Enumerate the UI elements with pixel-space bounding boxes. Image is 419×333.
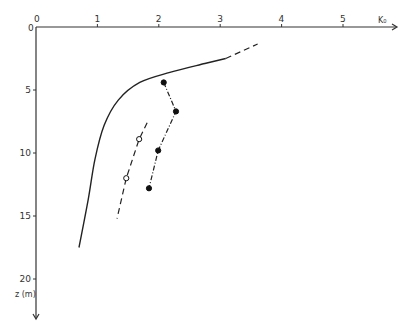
filled-circle-marker-icon — [173, 109, 178, 114]
axes: 012345 5101520 0 K₀ z (m) — [15, 14, 397, 319]
series-line — [117, 123, 147, 219]
series-line — [226, 44, 258, 58]
x-ticks: 012345 — [34, 14, 346, 27]
y-tick-label: 5 — [25, 85, 31, 95]
y-tick-label: 15 — [20, 211, 31, 221]
x-tick-label: 2 — [156, 14, 162, 24]
series-line — [149, 82, 176, 188]
series-line — [79, 59, 226, 248]
chart: 012345 5101520 0 K₀ z (m) — [0, 0, 419, 333]
y-tick-label: 20 — [20, 274, 32, 284]
series-open-points — [117, 123, 147, 219]
open-circle-marker-icon — [124, 176, 129, 181]
y-tick-label: 10 — [20, 148, 32, 158]
open-circle-marker-icon — [137, 137, 142, 142]
x-tick-label: 0 — [34, 14, 40, 24]
x-tick-label: 1 — [94, 14, 100, 24]
series — [79, 44, 258, 247]
y-ticks: 5101520 — [20, 85, 36, 284]
origin-label: 0 — [28, 23, 34, 33]
x-tick-label: 4 — [279, 14, 285, 24]
x-axis-label: K₀ — [378, 16, 386, 25]
filled-circle-marker-icon — [146, 186, 151, 191]
x-tick-label: 3 — [217, 14, 223, 24]
series-solid-curve-extrapolation — [226, 44, 258, 58]
filled-circle-marker-icon — [156, 148, 161, 153]
x-tick-label: 5 — [340, 14, 346, 24]
series-filled-points — [146, 80, 178, 191]
series-solid-curve — [79, 59, 226, 248]
y-axis-label: z (m) — [15, 290, 36, 299]
filled-circle-marker-icon — [161, 80, 166, 85]
